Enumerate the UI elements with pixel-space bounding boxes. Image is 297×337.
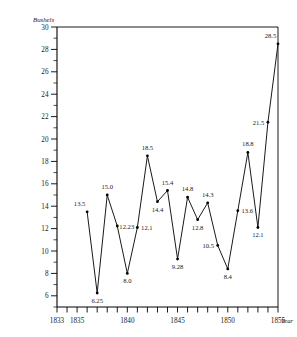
data-series-line xyxy=(87,44,278,293)
data-point-marker xyxy=(126,272,129,275)
data-point-marker xyxy=(267,121,270,124)
data-point-label: 15.4 xyxy=(162,179,174,186)
data-point-marker xyxy=(166,189,169,192)
y-axis-title: Bushels xyxy=(33,16,54,23)
data-point-label: 8.0 xyxy=(123,277,132,284)
data-point-marker xyxy=(156,200,159,203)
data-point-label: 18.5 xyxy=(142,144,154,151)
line-chart: 6810121416182022242628301833183518401845… xyxy=(0,0,297,337)
data-point-label: 28.5 xyxy=(265,32,277,39)
data-point-marker xyxy=(246,151,249,154)
data-point-label: 14.3 xyxy=(202,191,214,198)
data-point-marker xyxy=(257,226,260,229)
x-axis-tick-label: 1833 xyxy=(50,317,65,325)
y-axis-tick-label: 6 xyxy=(45,292,49,300)
y-axis-tick-label: 20 xyxy=(41,136,49,144)
data-point-label: 18.8 xyxy=(242,140,254,147)
data-point-label: 14.4 xyxy=(152,206,164,213)
data-point-label: 12.23 xyxy=(119,223,135,230)
y-axis-tick-label: 16 xyxy=(41,180,49,188)
data-point-label: 12.1 xyxy=(252,231,264,238)
y-axis-tick-label: 12 xyxy=(41,225,49,233)
data-point-marker xyxy=(196,218,199,221)
x-axis-tick-label: 1850 xyxy=(221,317,236,325)
y-axis-tick-label: 30 xyxy=(41,24,49,32)
y-axis-tick-label: 28 xyxy=(41,46,49,54)
data-point-label: 12.1 xyxy=(141,224,153,231)
data-point-marker xyxy=(216,244,219,247)
data-point-marker xyxy=(236,209,239,212)
data-point-label: 10.5 xyxy=(202,242,214,249)
x-axis-tick-label: 1835 xyxy=(70,317,85,325)
y-axis-tick-label: 8 xyxy=(45,270,49,278)
data-point-marker xyxy=(176,258,179,261)
y-axis-tick-label: 26 xyxy=(41,68,49,76)
y-axis-tick-label: 14 xyxy=(41,203,49,211)
y-axis-tick-label: 18 xyxy=(41,158,49,166)
data-point-label: 14.8 xyxy=(182,185,194,192)
data-point-label: 9.28 xyxy=(172,263,184,270)
data-point-label: 13.6 xyxy=(242,207,254,214)
data-point-label: 6.25 xyxy=(91,297,103,304)
y-axis-tick-label: 22 xyxy=(41,113,49,121)
data-point-marker xyxy=(136,226,139,229)
data-point-marker xyxy=(226,268,229,271)
data-point-label: 21.5 xyxy=(253,119,265,126)
data-point-marker xyxy=(186,196,189,199)
y-axis-tick-label: 10 xyxy=(41,248,49,256)
data-point-marker xyxy=(96,292,99,295)
data-point-marker xyxy=(146,154,149,157)
data-point-marker xyxy=(116,225,119,228)
y-axis-tick-label: 24 xyxy=(41,91,49,99)
data-point-marker xyxy=(206,201,209,204)
data-point-marker xyxy=(86,210,89,213)
chart-figure: 6810121416182022242628301833183518401845… xyxy=(0,0,297,337)
data-point-marker xyxy=(277,42,280,45)
data-point-label: 13.5 xyxy=(74,200,86,207)
x-axis-title: Year xyxy=(281,317,294,324)
x-axis-tick-label: 1845 xyxy=(170,317,185,325)
x-axis-tick-label: 1840 xyxy=(120,317,135,325)
data-point-label: 8.4 xyxy=(224,273,233,280)
data-point-marker xyxy=(106,194,109,197)
data-point-label: 15.0 xyxy=(101,183,113,190)
data-point-label: 12.8 xyxy=(192,224,204,231)
